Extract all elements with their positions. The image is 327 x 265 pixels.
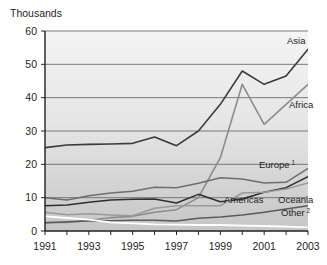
x-tick-label: 1999 — [209, 240, 233, 252]
x-tick-label: 1995 — [121, 240, 145, 252]
x-tick-label: 1991 — [33, 240, 57, 252]
line-chart: Thousands 0102030405060 1991199319951997… — [0, 0, 327, 265]
chart-container: Thousands 0102030405060 1991199319951997… — [0, 0, 327, 265]
y-tick-label: 40 — [25, 91, 37, 103]
series-label-oceania: Oceania — [278, 194, 314, 205]
x-tick-label: 2003 — [296, 240, 320, 252]
series-label-africa: Africa — [289, 99, 314, 110]
x-tick-label: 1993 — [77, 240, 101, 252]
y-tick-label: 50 — [25, 58, 37, 70]
y-axis-unit-title: Thousands — [10, 7, 62, 19]
series-label-americas: Americas — [224, 194, 264, 205]
y-tick-label: 10 — [25, 191, 37, 203]
series-label-superscript: 1 — [290, 159, 296, 166]
x-tick-label: 1997 — [165, 240, 189, 252]
y-tick-label: 0 — [31, 225, 37, 237]
y-tick-label: 30 — [25, 125, 37, 137]
x-tick-label: 2001 — [252, 240, 276, 252]
series-label-asia: Asia — [287, 35, 306, 46]
series-label-superscript: 2 — [305, 207, 311, 214]
y-tick-label: 20 — [25, 158, 37, 170]
y-tick-label: 60 — [25, 25, 37, 37]
